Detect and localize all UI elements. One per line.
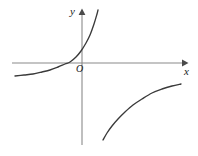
curve-exponential (15, 10, 98, 76)
y-axis-label: y (70, 6, 75, 17)
origin-label: O (76, 64, 83, 74)
y-axis (79, 9, 86, 146)
y-axis-arrow-icon (79, 9, 86, 16)
x-axis-label: x (184, 66, 189, 77)
curve-hyperbola-branch (103, 84, 181, 140)
coordinate-plane-svg (0, 0, 198, 156)
graph-figure: y x O (0, 0, 198, 156)
x-axis (12, 59, 189, 66)
